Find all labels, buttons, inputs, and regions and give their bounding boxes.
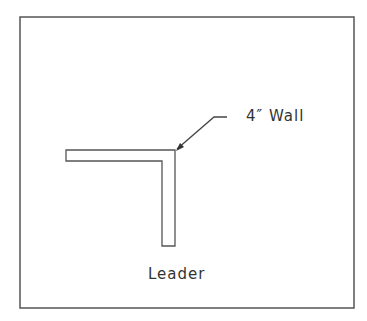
leader-line — [177, 117, 227, 149]
callout-label: 4″ Wall — [246, 107, 304, 125]
figure-caption: Leader — [148, 265, 205, 283]
wall-l-shape — [66, 150, 175, 246]
